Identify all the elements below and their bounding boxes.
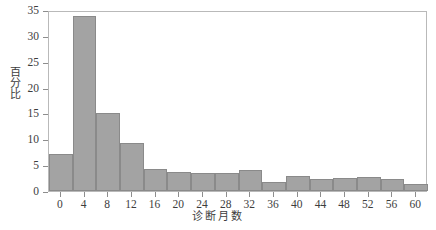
x-tick-label: 52 [362,199,374,211]
x-tick-label: 28 [220,199,232,211]
x-tick-label: 44 [315,199,327,211]
x-tick-label: 48 [338,199,350,211]
x-tick-mark [155,192,156,197]
x-tick-label: 60 [409,199,421,211]
x-tick-label: 12 [125,199,137,211]
x-tick-mark [178,192,179,197]
x-tick-mark [344,192,345,197]
x-tick-mark [391,192,392,197]
x-tick-label: 0 [57,199,63,211]
x-tick-mark [415,192,416,197]
x-tick-label: 24 [196,199,208,211]
x-axis: 04812162024283236404448525660 [0,0,436,230]
x-axis-title: 诊断月数 [0,211,436,222]
x-tick-mark [131,192,132,197]
x-tick-mark [84,192,85,197]
x-tick-label: 36 [267,199,279,211]
x-tick-mark [368,192,369,197]
x-tick-mark [202,192,203,197]
x-tick-label: 16 [149,199,161,211]
x-tick-mark [60,192,61,197]
x-tick-label: 20 [173,199,185,211]
x-tick-mark [320,192,321,197]
x-tick-label: 56 [386,199,398,211]
histogram-figure: 百分比 05101520253035 048121620242832364044… [0,0,436,230]
x-tick-mark [226,192,227,197]
x-tick-label: 4 [81,199,87,211]
x-tick-label: 8 [104,199,110,211]
x-tick-mark [107,192,108,197]
x-tick-mark [249,192,250,197]
x-tick-label: 40 [291,199,303,211]
x-tick-label: 32 [244,199,256,211]
x-tick-mark [297,192,298,197]
x-tick-mark [273,192,274,197]
